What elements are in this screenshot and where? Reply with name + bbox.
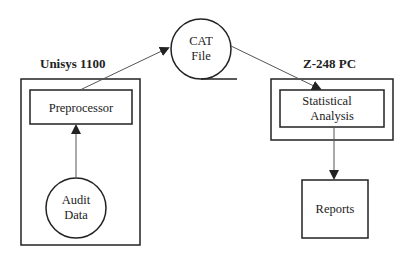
cat-file-label-line1: CAT	[189, 34, 213, 48]
diagram-canvas: Unisys 1100 Preprocessor Audit Data CAT …	[0, 0, 414, 256]
statistical-analysis-node[interactable]: Statistical Analysis	[280, 90, 384, 127]
statistical-analysis-label-line2: Analysis	[310, 109, 354, 123]
z248-pc-system: Z-248 PC Statistical Analysis	[271, 56, 393, 140]
reports-node[interactable]: Reports	[302, 180, 368, 238]
reports-label: Reports	[316, 202, 355, 216]
cat-file-node[interactable]: CAT File	[171, 19, 237, 79]
cat-file-label-line2: File	[191, 49, 211, 63]
preprocessor-label: Preprocessor	[49, 101, 114, 115]
audit-data-label-line2: Data	[64, 208, 88, 222]
preprocessor-node[interactable]: Preprocessor	[30, 90, 132, 124]
z248-pc-label: Z-248 PC	[303, 56, 356, 71]
unisys-1100-system: Unisys 1100 Preprocessor Audit Data	[21, 56, 140, 245]
audit-data-node[interactable]: Audit Data	[46, 178, 106, 238]
audit-data-label-line1: Audit	[62, 193, 91, 207]
statistical-analysis-label-line1: Statistical	[302, 94, 352, 108]
unisys-1100-label: Unisys 1100	[40, 56, 105, 71]
